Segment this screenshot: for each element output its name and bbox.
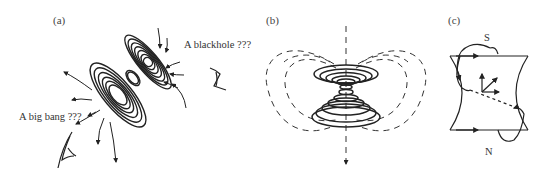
- eye-icon-lower: [58, 132, 76, 168]
- diagram-canvas: [0, 0, 548, 178]
- panel-c-axes-icon: [482, 74, 499, 92]
- south-pole-label: S: [484, 32, 490, 43]
- north-pole-label: N: [485, 146, 493, 157]
- panel-a-wormhole: [82, 30, 178, 135]
- blackhole-annotation: A blackhole ???: [184, 39, 251, 50]
- panel-a-label: (a): [53, 14, 65, 26]
- panel-b-label: (b): [266, 14, 279, 26]
- eye-icon-upper: [210, 68, 226, 90]
- panel-c-wormhole-slab: [450, 44, 528, 141]
- big-bang-annotation: A big bang ???: [19, 111, 82, 122]
- panel-c-label: (c): [448, 14, 460, 26]
